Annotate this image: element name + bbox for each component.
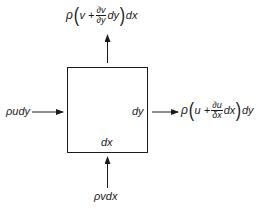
open-paren: ( [74,5,79,25]
top-outflow-expression: ρ ( v + ∂v ∂y dy ) dx [66,5,137,25]
close-paren: ) [120,5,125,25]
suffix: dx [126,9,138,21]
fraction-denominator: ∂y [96,16,107,25]
box-dx-label: dx [101,137,113,148]
left-inflow-label: ρudy [6,106,30,117]
term: u + [195,104,211,116]
partial-fraction: ∂v ∂y [96,6,107,25]
open-paren: ( [189,100,194,120]
right-outflow-expression: ρ ( u + ∂u δx dx ) dy [181,100,254,120]
close-paren: ) [236,100,241,120]
rho-symbol: ρ [66,8,73,22]
differential: dy [107,9,119,21]
term: v + [80,9,95,21]
fraction-numerator: ∂v [96,6,107,16]
fraction-numerator: ∂u [211,101,222,111]
differential: dx [224,104,236,116]
box-dy-label: dy [132,106,144,117]
suffix: dy [242,104,254,116]
bottom-inflow-label: ρvdx [94,191,117,202]
partial-fraction: ∂u δx [211,101,223,120]
rho-symbol: ρ [181,103,188,117]
fraction-denominator: δx [211,111,223,120]
